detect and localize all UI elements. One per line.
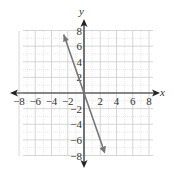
x-tick-label: −6 bbox=[29, 95, 41, 107]
y-tick-label: −4 bbox=[70, 118, 82, 130]
y-tick-label: −6 bbox=[70, 134, 82, 146]
x-tick-label: −4 bbox=[46, 95, 58, 107]
y-tick-label: 8 bbox=[77, 25, 83, 37]
x-tick-label: 8 bbox=[146, 95, 152, 107]
x-tick-label: 4 bbox=[114, 95, 120, 107]
x-tick-label: −8 bbox=[13, 95, 25, 107]
y-axis-label: y bbox=[78, 5, 84, 17]
y-tick-label: −8 bbox=[70, 150, 82, 162]
y-tick-label: −2 bbox=[70, 103, 82, 115]
coordinate-plane: −8−6−4−224688642−2−4−6−8 x y bbox=[0, 0, 174, 174]
y-tick-label: 6 bbox=[77, 40, 83, 52]
x-axis-label: x bbox=[159, 86, 165, 98]
x-tick-label: 6 bbox=[130, 95, 136, 107]
y-tick-label: 4 bbox=[77, 56, 83, 68]
x-tick-label: 2 bbox=[98, 95, 104, 107]
